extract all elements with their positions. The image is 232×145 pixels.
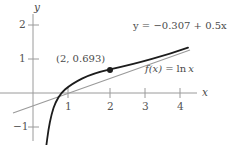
x-axis-label: x	[202, 87, 208, 98]
y-tick-label-1: 1	[19, 53, 26, 64]
function-equation-fx: f(x)	[145, 63, 162, 74]
point-annotation-label: (2, 0.693)	[56, 54, 105, 64]
x-tick-label-3: 3	[142, 101, 149, 112]
x-tick-label-4: 4	[177, 101, 184, 112]
x-tick-label-1: 1	[65, 101, 72, 112]
function-equation-ln: ln	[177, 63, 187, 74]
function-equation-var: x	[188, 63, 194, 74]
y-axis-label: y	[34, 2, 40, 13]
chart-figure: y x 2 1 −1 1 2 3 4 y = −0.307 + 0.5x f(x…	[0, 0, 232, 145]
y-tick-label-2: 2	[19, 19, 26, 30]
y-tick-label-neg1: −1	[13, 121, 28, 132]
x-tick-label-2: 2	[107, 101, 114, 112]
tangent-point-marker	[107, 67, 113, 73]
tangent-equation-label: y = −0.307 + 0.5x	[133, 21, 227, 31]
function-equation-label: f(x)=lnx	[145, 64, 194, 74]
function-equation-eq: =	[165, 63, 173, 74]
